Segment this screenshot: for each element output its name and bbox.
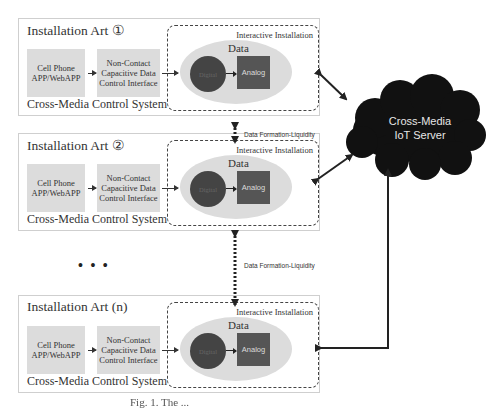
figure-caption: Fig. 1. The ... bbox=[130, 396, 189, 408]
bidirectional-arrow-icon bbox=[321, 75, 346, 99]
ellipsis: • • • bbox=[78, 258, 110, 274]
server-label-line1: Cross-Media bbox=[370, 114, 470, 128]
flow-label: Data Formation-Liquidity bbox=[244, 262, 315, 269]
flow-label: Data Formation-Liquidity bbox=[244, 131, 315, 138]
server-label: Cross-Media IoT Server bbox=[370, 114, 470, 142]
elbow-arrow-icon bbox=[321, 170, 388, 348]
bidirectional-arrow-icon bbox=[318, 155, 352, 179]
server-label-line2: IoT Server bbox=[370, 128, 470, 142]
